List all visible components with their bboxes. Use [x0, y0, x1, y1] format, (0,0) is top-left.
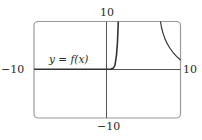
y-max-label: 10: [100, 7, 114, 18]
function-label: y = f(x): [49, 54, 88, 65]
x-max-label: 10: [183, 64, 197, 75]
graph-canvas: [0, 0, 202, 140]
y-min-label: −10: [97, 121, 120, 132]
curve-right-branch: [161, 22, 181, 61]
x-min-label: −10: [1, 64, 24, 75]
